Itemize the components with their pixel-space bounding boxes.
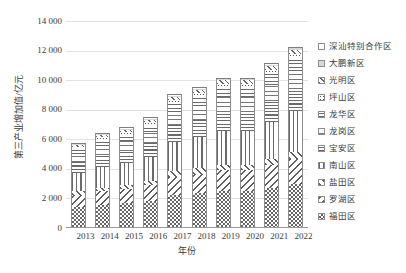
bar-segment[interactable] xyxy=(192,137,207,168)
bar-segment[interactable] xyxy=(240,97,255,112)
bar-segment[interactable] xyxy=(240,87,255,97)
bar-segment[interactable] xyxy=(216,165,231,171)
bar-segment[interactable] xyxy=(192,168,207,173)
bar-segment[interactable] xyxy=(167,125,182,142)
bar-segment[interactable] xyxy=(192,193,207,228)
bar-segment[interactable] xyxy=(240,191,255,228)
bar-segment[interactable] xyxy=(119,141,134,151)
bar-segment[interactable] xyxy=(240,165,255,171)
bar-segment[interactable] xyxy=(95,134,110,135)
bar-segment[interactable] xyxy=(143,201,158,229)
bar-segment[interactable] xyxy=(167,103,182,112)
bar-segment[interactable] xyxy=(71,173,86,192)
bar-segment[interactable] xyxy=(288,152,303,159)
bar-segment[interactable] xyxy=(288,159,303,184)
legend-item[interactable]: 罗湖区 xyxy=(318,191,404,208)
bar-segment[interactable] xyxy=(167,112,182,125)
bar-segment[interactable] xyxy=(288,58,303,70)
bar-segment[interactable] xyxy=(192,90,207,93)
bar-segment[interactable] xyxy=(192,96,207,105)
bar-group[interactable] xyxy=(71,21,86,228)
bar-segment[interactable] xyxy=(119,185,134,189)
bar-segment[interactable] xyxy=(167,100,182,103)
bar-group[interactable] xyxy=(95,21,110,228)
bar-segment[interactable] xyxy=(264,165,279,188)
bar-segment[interactable] xyxy=(119,151,134,163)
bar-segment[interactable] xyxy=(288,89,303,111)
bar-segment[interactable] xyxy=(95,135,110,137)
bar-segment[interactable] xyxy=(143,117,158,118)
bar-segment[interactable] xyxy=(167,195,182,228)
bar-segment[interactable] xyxy=(143,125,158,132)
bar-segment[interactable] xyxy=(95,137,110,139)
bar-segment[interactable] xyxy=(143,120,158,122)
bar-segment[interactable] xyxy=(216,131,231,165)
bar-segment[interactable] xyxy=(71,147,86,149)
bar-segment[interactable] xyxy=(216,97,231,112)
bar-segment[interactable] xyxy=(216,87,231,97)
bar-segment[interactable] xyxy=(95,188,110,192)
bar-segment[interactable] xyxy=(95,167,110,188)
bar-segment[interactable] xyxy=(288,71,303,89)
bar-segment[interactable] xyxy=(119,163,134,185)
bar-segment[interactable] xyxy=(95,205,110,229)
bar-segment[interactable] xyxy=(288,50,303,54)
bar-segment[interactable] xyxy=(264,85,279,101)
bar-group[interactable] xyxy=(192,21,207,228)
bar-segment[interactable] xyxy=(119,127,134,128)
bar-segment[interactable] xyxy=(143,181,158,185)
bar-segment[interactable] xyxy=(71,154,86,162)
bar-segment[interactable] xyxy=(240,80,255,83)
bar-segment[interactable] xyxy=(192,87,207,88)
bar-segment[interactable] xyxy=(71,191,86,194)
bar-segment[interactable] xyxy=(119,189,134,203)
bar-segment[interactable] xyxy=(71,195,86,207)
legend-item[interactable]: 福田区 xyxy=(318,208,404,225)
bar-segment[interactable] xyxy=(192,120,207,137)
bar-segment[interactable] xyxy=(216,78,231,79)
bar-segment[interactable] xyxy=(216,191,231,228)
bar-segment[interactable] xyxy=(240,79,255,81)
bar-segment[interactable] xyxy=(143,132,158,143)
bar-segment[interactable] xyxy=(143,157,158,181)
bar-segment[interactable] xyxy=(288,54,303,58)
legend-item[interactable]: 坪山区 xyxy=(318,89,404,106)
bar-segment[interactable] xyxy=(143,143,158,157)
bar-segment[interactable] xyxy=(95,139,110,145)
bar-segment[interactable] xyxy=(167,177,182,195)
bar-group[interactable] xyxy=(216,21,231,228)
bar-segment[interactable] xyxy=(264,188,279,229)
bar-segment[interactable] xyxy=(288,184,303,229)
bar-segment[interactable] xyxy=(71,207,86,228)
bar-segment[interactable] xyxy=(288,47,303,48)
bar-segment[interactable] xyxy=(71,143,86,144)
legend-item[interactable]: 盐田区 xyxy=(318,174,404,191)
legend-item[interactable]: 龙华区 xyxy=(318,106,404,123)
bar-group[interactable] xyxy=(288,21,303,228)
bar-segment[interactable] xyxy=(192,106,207,120)
bar-segment[interactable] xyxy=(119,203,134,228)
bar-segment[interactable] xyxy=(264,159,279,165)
bar-segment[interactable] xyxy=(240,84,255,87)
bar-segment[interactable] xyxy=(240,112,255,131)
bar-segment[interactable] xyxy=(167,97,182,100)
bar-segment[interactable] xyxy=(143,119,158,120)
bar-segment[interactable] xyxy=(264,70,279,74)
bar-group[interactable] xyxy=(264,21,279,228)
bar-group[interactable] xyxy=(143,21,158,228)
bar-segment[interactable] xyxy=(192,89,207,90)
legend-item[interactable]: 深汕特别合作区 xyxy=(318,38,404,55)
bar-segment[interactable] xyxy=(240,131,255,165)
bar-segment[interactable] xyxy=(143,185,158,200)
legend-item[interactable]: 南山区 xyxy=(318,157,404,174)
bar-segment[interactable] xyxy=(167,142,182,172)
bar-segment[interactable] xyxy=(95,191,110,204)
bar-segment[interactable] xyxy=(119,132,134,134)
bar-segment[interactable] xyxy=(216,170,231,191)
bar-segment[interactable] xyxy=(264,66,279,70)
bar-segment[interactable] xyxy=(264,65,279,67)
legend-item[interactable]: 龙岗区 xyxy=(318,123,404,140)
bar-segment[interactable] xyxy=(264,122,279,159)
bar-segment[interactable] xyxy=(119,134,134,141)
legend-item[interactable]: 光明区 xyxy=(318,72,404,89)
